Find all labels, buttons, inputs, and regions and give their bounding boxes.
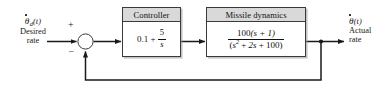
input-signal-label: θd(t) Desired rate: [6, 17, 60, 45]
block-missile-dynamics-header: Missile dynamics: [207, 8, 305, 22]
block-diagram: θd(t) Desired rate + − Controller 0.1 + …: [0, 0, 389, 91]
output-signal-label: θ(t) Actual rate: [349, 17, 387, 44]
block-missile-dynamics[interactable]: Missile dynamics 100(s + 1) (s2+2s+100): [206, 7, 306, 57]
diagram-wires: [0, 0, 389, 91]
controller-constant: 0.1: [137, 34, 148, 44]
summing-junction-minus-sign: −: [69, 47, 75, 57]
controller-operator: +: [148, 34, 157, 44]
block-controller-body: 0.1 + 5 s: [123, 22, 180, 56]
controller-fraction-denominator: s: [159, 40, 165, 50]
controller-transfer-function: 0.1 + 5 s: [137, 28, 166, 49]
summing-junction-circle: [78, 34, 93, 49]
block-controller[interactable]: Controller 0.1 + 5 s: [122, 7, 181, 57]
input-signal-symbol: θd(t): [6, 17, 60, 28]
block-controller-header: Controller: [123, 8, 180, 22]
missile-fraction: 100(s + 1) (s2+2s+100): [227, 28, 284, 50]
controller-fraction-numerator: 5: [158, 28, 165, 38]
missile-fraction-denominator: (s2+2s+100): [228, 40, 284, 50]
input-signal-arg: (t): [33, 17, 41, 26]
block-missile-dynamics-body: 100(s + 1) (s2+2s+100): [207, 22, 305, 56]
missile-transfer-function: 100(s + 1) (s2+2s+100): [227, 28, 284, 50]
output-signal-arg: (t): [354, 17, 362, 26]
output-caption-line2: rate: [349, 36, 387, 45]
controller-fraction: 5 s: [158, 28, 166, 49]
missile-fraction-numerator: 100(s + 1): [235, 28, 276, 38]
summing-junction-plus-sign: +: [68, 20, 74, 30]
input-caption-line2: rate: [6, 37, 60, 46]
